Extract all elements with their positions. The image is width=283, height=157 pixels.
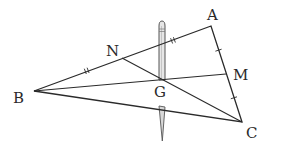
label-b: B <box>13 89 24 107</box>
centroid-diagram: A B C M N G <box>0 0 283 157</box>
median-bm <box>34 74 226 91</box>
diagram-canvas: A B C M N G <box>0 0 283 157</box>
tick-mark-bn <box>84 68 89 74</box>
label-c: C <box>246 124 257 142</box>
label-a: A <box>206 6 218 24</box>
triangle-abc <box>34 26 242 122</box>
label-m: M <box>233 66 248 84</box>
label-g: G <box>154 83 166 101</box>
label-n: N <box>106 42 119 60</box>
